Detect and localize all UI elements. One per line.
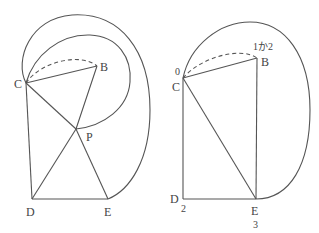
left-label-E: E [104, 205, 111, 219]
right-label-C: C [172, 80, 180, 94]
left-label-P: P [86, 130, 93, 144]
left-label-C: C [14, 77, 22, 91]
left-inner-loop [26, 35, 130, 129]
left-figure: C B P D E [14, 15, 150, 219]
right-annot-D: 2 [181, 203, 186, 214]
right-seg-CE [183, 78, 256, 199]
left-seg-BP [76, 66, 97, 129]
right-label-E: E [251, 204, 258, 218]
left-seg-DP [32, 129, 76, 199]
left-seg-CB [26, 66, 97, 83]
right-annot-B: 1か2 [253, 41, 273, 52]
right-label-D: D [170, 192, 179, 206]
left-outer-loop [22, 15, 150, 199]
right-annot-C: 0 [175, 66, 180, 77]
right-annot-E: 3 [253, 219, 258, 230]
left-seg-CP [26, 83, 76, 129]
right-label-B: B [261, 55, 269, 69]
left-label-D: D [26, 205, 35, 219]
left-dashed-arc [26, 60, 97, 83]
right-dashed-arc [183, 53, 257, 78]
right-seg-BE [256, 58, 257, 199]
diagram-canvas: C B P D E C 0 B 1か2 D 2 E 3 [0, 0, 319, 233]
left-seg-CD [26, 83, 32, 199]
left-label-B: B [100, 60, 108, 74]
right-figure: C 0 B 1か2 D 2 E 3 [170, 22, 310, 230]
